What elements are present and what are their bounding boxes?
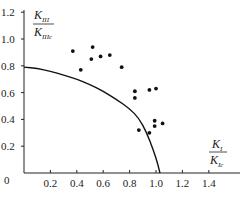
x-tick-label: 1.2 bbox=[176, 177, 190, 189]
data-point bbox=[148, 131, 152, 135]
svg-text:KIII: KIII bbox=[33, 8, 50, 24]
svg-text:KI: KI bbox=[211, 137, 223, 153]
data-point bbox=[99, 55, 103, 59]
data-point bbox=[148, 88, 152, 92]
y-axis-label: KIII KIIIc bbox=[33, 8, 54, 41]
data-point bbox=[89, 57, 93, 61]
axes bbox=[24, 10, 240, 173]
x-tick-label: 1.0 bbox=[149, 177, 163, 189]
svg-text:KIIIc: KIIIc bbox=[33, 25, 53, 41]
data-point bbox=[133, 96, 137, 100]
data-point bbox=[137, 128, 141, 132]
data-point bbox=[161, 122, 165, 126]
data-point bbox=[120, 65, 124, 69]
y-tick-label: 1.2 bbox=[1, 6, 15, 18]
y-tick-label: 1.0 bbox=[1, 33, 15, 45]
data-point bbox=[154, 87, 158, 91]
criterion-curve bbox=[24, 67, 160, 173]
x-tick-label: 0.6 bbox=[96, 177, 110, 189]
y-tick-label: 0.8 bbox=[1, 60, 15, 72]
data-point bbox=[71, 49, 75, 53]
data-point bbox=[91, 45, 95, 49]
data-points bbox=[71, 45, 165, 135]
data-point bbox=[133, 89, 137, 93]
x-tick-label: 0.8 bbox=[123, 177, 137, 189]
x-axis-label: KI KIc bbox=[209, 137, 227, 169]
data-point bbox=[79, 68, 83, 72]
x-tick-label: 1.4 bbox=[202, 177, 216, 189]
data-point bbox=[153, 124, 157, 128]
chart: 0.20.40.60.81.01.2 0.20.40.60.81.01.21.4… bbox=[0, 0, 244, 197]
x-tick-label: 0.2 bbox=[44, 177, 58, 189]
y-ticks: 0.20.40.60.81.01.2 bbox=[1, 6, 24, 152]
y-tick-label: 0.6 bbox=[1, 87, 15, 99]
y-tick-label: 0.4 bbox=[1, 113, 15, 125]
origin-label: 0 bbox=[4, 174, 10, 186]
data-point bbox=[108, 53, 112, 57]
y-tick-label: 0.2 bbox=[1, 140, 15, 152]
data-point bbox=[153, 119, 157, 123]
svg-text:KIc: KIc bbox=[209, 153, 224, 169]
x-tick-label: 0.4 bbox=[70, 177, 84, 189]
